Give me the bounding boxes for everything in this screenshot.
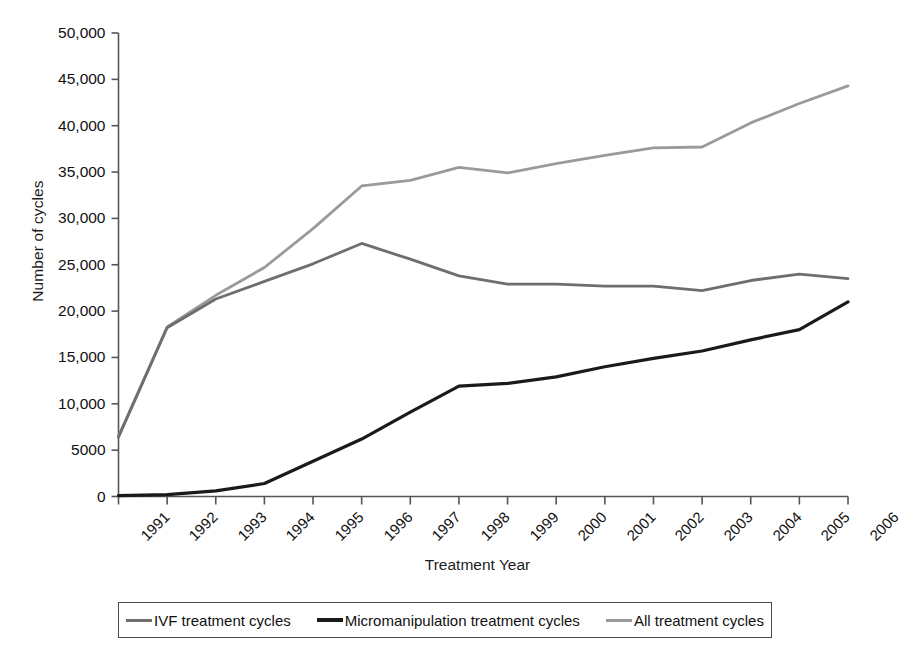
legend-label: Micromanipulation treatment cycles	[345, 612, 580, 629]
chart-legend: IVF treatment cyclesMicromanipulation tr…	[118, 602, 772, 638]
x-axis-title: Treatment Year	[0, 556, 889, 574]
y-tick-label: 30,000	[20, 210, 106, 226]
y-tick-label: 20,000	[20, 303, 106, 319]
y-tick-label: 15,000	[20, 349, 106, 365]
legend-label: IVF treatment cycles	[154, 612, 291, 629]
x-axis-title-text: Treatment Year	[425, 556, 530, 573]
y-tick-label: 50,000	[20, 25, 106, 41]
legend-item[interactable]: All treatment cycles	[606, 612, 764, 629]
series-line-ivf-treatment-cycles	[119, 243, 849, 437]
y-tick-label: 40,000	[20, 118, 106, 134]
y-tick-label: 5000	[20, 442, 106, 458]
y-tick-label: 25,000	[20, 257, 106, 273]
legend-swatch-icon	[317, 618, 343, 621]
legend-swatch-icon	[126, 619, 152, 622]
y-tick-label: 10,000	[20, 396, 106, 412]
y-tick-label: 45,000	[20, 71, 106, 87]
y-tick-label: 35,000	[20, 164, 106, 180]
legend-item[interactable]: Micromanipulation treatment cycles	[317, 612, 580, 629]
legend-label: All treatment cycles	[634, 612, 764, 629]
legend-item[interactable]: IVF treatment cycles	[126, 612, 291, 629]
legend-swatch-icon	[606, 619, 632, 622]
series-line-micromanipulation-treatment-cycles	[119, 302, 849, 496]
y-tick-label: 0	[20, 489, 106, 505]
